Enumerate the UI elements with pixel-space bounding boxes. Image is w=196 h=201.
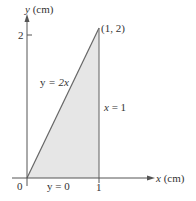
region-diagram: y (cm) x (cm) 2 0 1 (1, 2) y = 2x x = 1 … — [0, 0, 196, 201]
y-axis-label: y (cm) — [24, 3, 54, 16]
label-x-equals-1: x = 1 — [103, 101, 126, 113]
origin-label: 0 — [17, 180, 23, 192]
point-label: (1, 2) — [101, 22, 125, 35]
y-axis-arrow-icon — [25, 14, 30, 22]
y-tick-label-2: 2 — [18, 29, 24, 41]
x-axis-arrow-icon — [147, 176, 155, 181]
x-axis-label: x (cm) — [155, 172, 185, 185]
label-y-equals-2x: y = 2x — [40, 76, 69, 88]
label-y-equals-0: y = 0 — [47, 180, 70, 192]
x-tick-label-1: 1 — [96, 181, 102, 193]
